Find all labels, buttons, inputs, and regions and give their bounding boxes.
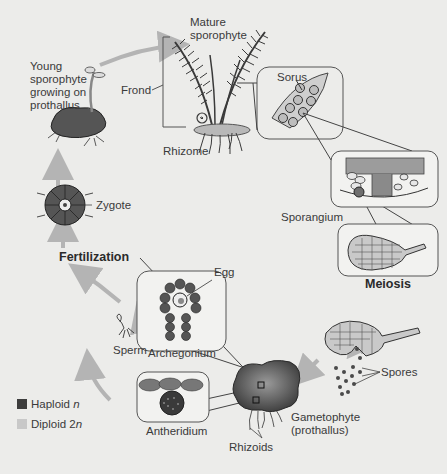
label-sperm: Sperm <box>113 344 147 357</box>
label-line: growing on <box>30 86 87 99</box>
label-egg: Egg <box>214 266 234 279</box>
label-gametophyte: Gametophyte (prothallus) <box>291 411 360 437</box>
label-rhizoids: Rhizoids <box>229 441 273 454</box>
zygote-illustration <box>37 185 93 225</box>
legend-haploid-label: Haploid n <box>31 398 80 410</box>
mature-sporophyte-illustration <box>172 30 268 125</box>
label-meiosis: Meiosis <box>365 278 411 291</box>
label-spores: Spores <box>381 366 417 379</box>
sporangium-panel <box>338 224 438 276</box>
sperm-illustration <box>117 314 134 338</box>
label-sorus: Sorus <box>277 71 307 84</box>
label-zygote: Zygote <box>96 199 131 212</box>
legend-text: Diploid 2 <box>31 418 76 430</box>
label-line: (prothallus) <box>291 424 360 437</box>
archegonium-panel <box>137 271 226 351</box>
sorus-cross-section-panel <box>331 151 438 207</box>
antheridium-panel <box>137 372 209 422</box>
label-archegonium: Archegonium <box>148 347 216 360</box>
label-line: prothallus <box>30 99 87 112</box>
label-line: Mature <box>190 16 247 29</box>
legend-haploid: Haploid n <box>17 398 80 410</box>
legend-symbol: n <box>76 418 82 430</box>
legend-diploid-label: Diploid 2n <box>31 418 82 430</box>
diploid-swatch <box>17 419 27 429</box>
legend-diploid: Diploid 2n <box>17 418 82 430</box>
label-mature-sporophyte: Mature sporophyte <box>190 16 247 42</box>
gametophyte-illustration <box>233 361 300 438</box>
label-line: Young <box>30 60 87 73</box>
label-line: sporophyte <box>190 29 247 42</box>
legend-text: Haploid <box>31 398 73 410</box>
label-line: Gametophyte <box>291 411 360 424</box>
fern-life-cycle-diagram: Mature sporophyte Young sporophyte growi… <box>0 0 447 474</box>
label-line: sporophyte <box>30 73 87 86</box>
label-sporangium: Sporangium <box>281 211 343 224</box>
label-young-sporophyte: Young sporophyte growing on prothallus <box>30 60 87 112</box>
label-antheridium: Antheridium <box>146 425 207 438</box>
label-frond: Frond <box>121 84 151 97</box>
label-rhizome: Rhizome <box>163 145 208 158</box>
label-fertilization: Fertilization <box>59 251 129 264</box>
legend-symbol: n <box>73 398 79 410</box>
spores-pointer <box>355 368 380 384</box>
haploid-swatch <box>17 399 27 409</box>
open-sporangium-illustration <box>325 321 420 356</box>
